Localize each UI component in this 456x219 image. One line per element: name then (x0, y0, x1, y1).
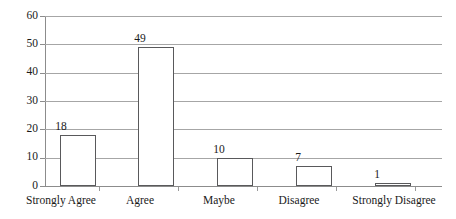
y-axis-tick-label-60: 60 (6, 10, 38, 22)
x-axis-tick-mark-3 (257, 187, 258, 191)
y-axis-tick-label-0: 0 (6, 180, 38, 192)
x-axis-tick-mark-1 (99, 187, 100, 191)
gridline-60 (45, 16, 442, 17)
x-axis-category-label-disagree: Disagree (261, 194, 337, 207)
y-axis-tick-label-40: 40 (6, 66, 38, 78)
bar-disagree (296, 166, 332, 186)
gridline-20 (45, 129, 442, 130)
x-axis-category-label-strongly-disagree: Strongly Disagree (340, 194, 448, 207)
x-axis-line (45, 186, 442, 187)
value-label-strongly-agree: 18 (38, 121, 84, 133)
bar-maybe (217, 158, 253, 186)
x-axis-tick-mark-2 (178, 187, 179, 191)
value-label-agree: 49 (117, 33, 163, 45)
value-label-disagree: 7 (275, 152, 321, 164)
y-axis-tick-label-30: 30 (6, 95, 38, 107)
bar-chart: 60 50 40 30 20 10 0 18 49 10 7 1 (0, 0, 456, 219)
plot-area (45, 16, 442, 186)
gridline-30 (45, 101, 442, 102)
value-label-strongly-disagree: 1 (354, 169, 400, 181)
gridline-40 (45, 73, 442, 74)
value-label-maybe: 10 (196, 144, 242, 156)
bar-agree (138, 47, 174, 186)
y-axis-tick-label-50: 50 (6, 38, 38, 50)
x-axis-tick-mark-4 (336, 187, 337, 191)
gridline-50 (45, 44, 442, 45)
bar-strongly-agree (60, 135, 96, 186)
y-axis-tick-label-10: 10 (6, 151, 38, 163)
x-axis-tick-mark-5 (415, 187, 416, 191)
x-axis-category-label-agree: Agree (105, 194, 175, 207)
y-axis-tick-labels: 60 50 40 30 20 10 0 (0, 0, 38, 219)
x-axis-category-label-strongly-agree: Strongly Agree (21, 194, 101, 207)
x-axis-category-label-maybe: Maybe (184, 194, 254, 207)
y-axis-tick-label-20: 20 (6, 123, 38, 135)
